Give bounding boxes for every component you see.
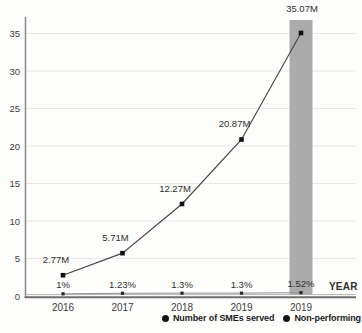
smes-served-value-label: 20.87M bbox=[219, 118, 251, 129]
smes-served-marker bbox=[61, 273, 66, 278]
non-performing-marker bbox=[121, 292, 124, 295]
non-performing-value-label: 1.23% bbox=[109, 279, 136, 290]
smes-served-value-label: 35.07M bbox=[286, 3, 318, 14]
non-performing-value-label: 1.52% bbox=[288, 278, 315, 289]
x-tick-label: 2017 bbox=[111, 302, 134, 313]
legend-label-smes-served: Number of SMEs served bbox=[173, 313, 274, 323]
x-tick-label: 2019 bbox=[290, 302, 313, 313]
x-axis-title: YEAR bbox=[329, 281, 358, 292]
x-tick-label: 2019 bbox=[230, 302, 253, 313]
y-tick-label: 20 bbox=[9, 141, 20, 152]
legend-item-smes-served: Number of SMEs served bbox=[162, 313, 274, 323]
x-tick-label: 2018 bbox=[171, 302, 194, 313]
y-tick-label: 25 bbox=[9, 103, 20, 114]
smes-served-value-label: 5.71M bbox=[102, 232, 128, 243]
non-performing-value-label: 1.3% bbox=[171, 279, 193, 290]
non-performing-value-label: 1.3% bbox=[231, 279, 253, 290]
y-tick-label: 0 bbox=[15, 291, 20, 302]
smes-served-marker bbox=[180, 202, 185, 207]
y-tick-label: 5 bbox=[15, 253, 20, 264]
non-performing-marker bbox=[240, 292, 243, 295]
non-performing-marker bbox=[61, 292, 64, 295]
smes-served-marker bbox=[239, 137, 244, 142]
legend-marker-sme-icon bbox=[162, 315, 169, 322]
chart-plot-area: 051015202530351%1.23%1.3%1.3%1.52%2.77M5… bbox=[0, 0, 362, 333]
y-tick-label: 15 bbox=[9, 178, 20, 189]
smes-served-marker bbox=[120, 251, 125, 256]
non-performing-value-label: 1% bbox=[56, 279, 70, 290]
y-tick-label: 35 bbox=[9, 28, 20, 39]
legend-item-non-performing: Non-performing bbox=[283, 313, 361, 323]
non-performing-marker bbox=[180, 292, 183, 295]
smes-served-value-label: 12.27M bbox=[159, 183, 191, 194]
x-tick-label: 2016 bbox=[52, 302, 75, 313]
sme-growth-chart: 051015202530351%1.23%1.3%1.3%1.52%2.77M5… bbox=[0, 0, 362, 333]
y-tick-label: 10 bbox=[9, 216, 20, 227]
highlight-bar bbox=[290, 20, 313, 295]
smes-served-marker bbox=[299, 31, 304, 36]
smes-served-line bbox=[63, 33, 301, 275]
non-performing-marker bbox=[299, 291, 302, 294]
y-tick-label: 30 bbox=[9, 66, 20, 77]
chart-legend: Number of SMEs served Non-performing bbox=[162, 313, 361, 323]
legend-marker-non-performing-icon bbox=[283, 315, 290, 322]
smes-served-value-label: 2.77M bbox=[43, 254, 69, 265]
legend-label-non-performing: Non-performing bbox=[294, 313, 361, 323]
